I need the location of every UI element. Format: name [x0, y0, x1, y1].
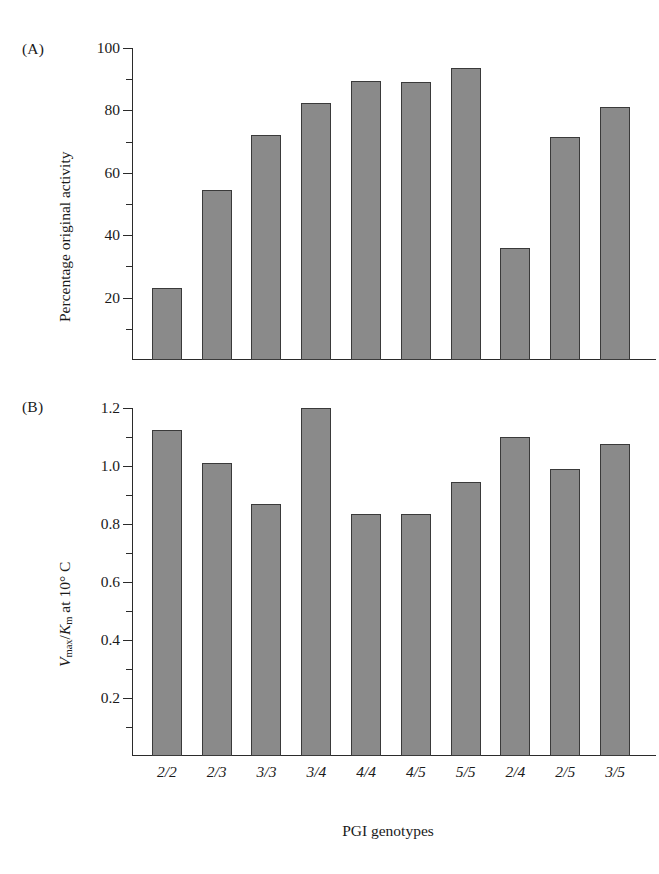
panel-a-plot-area: 20406080100 [132, 48, 644, 360]
bar-2-3 [202, 190, 232, 360]
figure-panel-group: (A) Percentage original activity 2040608… [0, 0, 659, 874]
y-tick-major [123, 698, 132, 699]
y-tick-label: 1.0 [101, 458, 120, 474]
bar-3-4 [301, 103, 331, 360]
bar-slot [441, 408, 491, 756]
bar-2-2 [152, 288, 182, 360]
bar-slot [391, 408, 441, 756]
panel-a-label: (A) [22, 40, 44, 58]
bar-slot [341, 48, 391, 360]
k-symbol: K [56, 625, 73, 635]
x-category-label: 4/4 [341, 763, 391, 781]
panel-b-label: (B) [22, 398, 43, 416]
bar-slot [142, 408, 192, 756]
bar-3-5 [600, 107, 630, 360]
bar-5-5 [451, 482, 481, 756]
bar-4-4 [351, 514, 381, 756]
bar-2-4 [500, 437, 530, 756]
bar-slot [590, 408, 640, 756]
y-tick-label: 0.4 [101, 632, 120, 648]
panel-a-y-axis-title: Percentage original activity [56, 152, 74, 322]
panel-b-y-axis-title: Vmax/Km at 10° C [56, 562, 74, 667]
bar-slot [590, 48, 640, 360]
y-tick-label: 60 [105, 165, 121, 181]
v-symbol: V [56, 658, 73, 667]
y-tick-major [123, 173, 132, 174]
bar-slot [491, 48, 541, 360]
bar-2-4 [500, 248, 530, 360]
y-tick-major [123, 298, 132, 299]
bar-slot [341, 408, 391, 756]
x-category-label: 3/3 [242, 763, 292, 781]
y-tick-label: 40 [105, 227, 121, 243]
x-category-label: 2/5 [540, 763, 590, 781]
y-tick-major [123, 466, 132, 467]
bar-3-3 [251, 135, 281, 360]
bar-slot [391, 48, 441, 360]
y-tick-label: 0.6 [101, 574, 120, 590]
bar-3-4 [301, 408, 331, 756]
y-tick-label: 1.2 [101, 400, 120, 416]
bar-slot [441, 48, 491, 360]
y-tick-major [123, 235, 132, 236]
bar-4-5 [401, 514, 431, 756]
y-tick-label: 100 [97, 40, 120, 56]
y-tick-major [123, 110, 132, 111]
bar-slot [491, 408, 541, 756]
x-category-label: 3/5 [590, 763, 640, 781]
bar-slot [192, 408, 242, 756]
x-category-label: 5/5 [441, 763, 491, 781]
y-tick-label: 80 [105, 103, 121, 119]
y-tick-major [123, 524, 132, 525]
bar-slot [242, 48, 292, 360]
y-tick-major [123, 640, 132, 641]
bar-slot [291, 48, 341, 360]
x-category-label: 2/2 [142, 763, 192, 781]
x-axis-title: PGI genotypes [132, 822, 644, 840]
y-tick-major [123, 582, 132, 583]
panel-b-plot-area: 0.20.40.60.81.01.2 [132, 408, 644, 756]
y-tick-major [123, 408, 132, 409]
y-tick-label: 0.8 [101, 516, 120, 532]
bar-2-5 [550, 469, 580, 756]
temperature-text: at 10° C [56, 562, 73, 617]
x-category-label: 4/5 [391, 763, 441, 781]
y-tick-label: 0.2 [101, 690, 120, 706]
x-axis-category-labels: 2/22/33/33/44/44/55/52/42/53/5 [132, 763, 644, 781]
bar-5-5 [451, 68, 481, 360]
clipped-caption [78, 0, 598, 3]
bar-slot [540, 408, 590, 756]
bar-3-3 [251, 504, 281, 756]
k-subscript: m [63, 617, 74, 625]
v-subscript: max [63, 639, 74, 657]
slash-k: / [56, 635, 73, 639]
bar-4-5 [401, 82, 431, 360]
bar-4-4 [351, 81, 381, 360]
bar-slot [192, 48, 242, 360]
bar-2-5 [550, 137, 580, 360]
bar-slot [142, 48, 192, 360]
x-category-label: 2/4 [491, 763, 541, 781]
y-tick-major [123, 48, 132, 49]
bar-slot [242, 408, 292, 756]
panel-b-bar-group [132, 408, 644, 756]
bar-slot [540, 48, 590, 360]
panel-a-bar-group [132, 48, 644, 360]
bar-2-2 [152, 430, 182, 756]
x-category-label: 2/3 [192, 763, 242, 781]
bar-2-3 [202, 463, 232, 756]
bar-3-5 [600, 444, 630, 756]
y-tick-label: 20 [105, 290, 121, 306]
x-category-label: 3/4 [291, 763, 341, 781]
bar-slot [291, 408, 341, 756]
